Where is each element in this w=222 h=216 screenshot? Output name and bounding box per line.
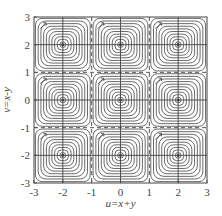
flow-arrow-icon <box>40 133 46 139</box>
flow-arrow-icon <box>40 23 46 29</box>
y-axis-label: v=x-y <box>0 87 12 113</box>
y-tick-label: -1 <box>21 122 30 134</box>
x-tick-label: -2 <box>58 186 67 198</box>
flow-arrow-icon <box>155 133 161 139</box>
x-tick-label: 2 <box>175 186 181 198</box>
x-tick-label: 1 <box>147 186 153 198</box>
y-tick-label: -2 <box>21 149 30 161</box>
contour-chart: -3-2-10123-3-2-10123u=x+yv=x-y <box>0 0 222 216</box>
x-tick-label: -1 <box>87 186 96 198</box>
y-tick-label: -3 <box>21 177 31 189</box>
x-axis-label: u=x+y <box>105 197 135 209</box>
flow-arrow-icon <box>98 133 104 139</box>
y-tick-label: 0 <box>25 94 31 106</box>
y-tick-label: 2 <box>25 39 31 51</box>
x-tick-label: -3 <box>29 186 39 198</box>
plot-area <box>34 17 207 183</box>
y-tick-label: 3 <box>25 11 31 23</box>
flow-arrow-icon <box>155 23 161 29</box>
y-tick-label: 1 <box>25 66 31 78</box>
flow-arrow-icon <box>155 78 161 84</box>
x-tick-label: 3 <box>204 186 210 198</box>
flow-arrow-icon <box>98 78 104 84</box>
flow-arrow-icon <box>98 23 104 29</box>
flow-arrow-icon <box>40 78 46 84</box>
